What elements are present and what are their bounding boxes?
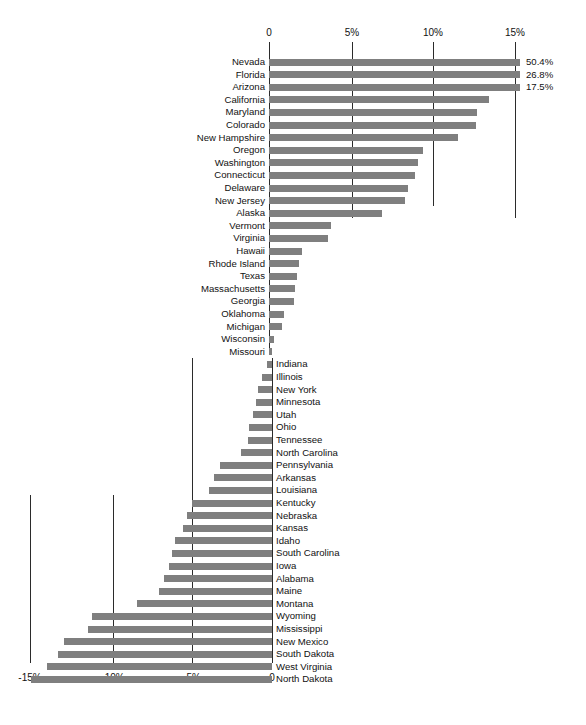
bar-category-label: Utah (276, 409, 296, 422)
bar-row: Iowa (0, 560, 586, 573)
bar-row: Wyoming (0, 610, 586, 623)
bar-category-label: Montana (276, 598, 313, 611)
bar (269, 260, 299, 267)
bar-category-label: Ohio (276, 421, 296, 434)
bar (92, 613, 272, 620)
top-axis-tick-label-0: 0 (266, 27, 272, 39)
bar-category-label: Kansas (276, 522, 308, 535)
bar-category-label: Michigan (0, 321, 265, 334)
bar (269, 248, 302, 255)
bar-row: West Virginia (0, 661, 586, 674)
bar (269, 185, 408, 192)
bar-row: Missouri (0, 346, 586, 359)
bar (169, 563, 272, 570)
bar (269, 222, 331, 229)
bar-category-label: Oklahoma (0, 308, 265, 321)
bar-category-label: Arizona (0, 81, 265, 94)
bar-row: Vermont (0, 220, 586, 233)
bar (187, 512, 272, 519)
bar-row: Idaho (0, 535, 586, 548)
bar-row: Massachusetts (0, 283, 586, 296)
bar-row: Oregon (0, 144, 586, 157)
bar-row: Hawaii (0, 245, 586, 258)
top-axis-tick-label-2: 10% (423, 27, 443, 39)
bar-row: Kansas (0, 522, 586, 535)
bar (256, 399, 272, 406)
bar (88, 626, 272, 633)
bar-row: Nebraska (0, 510, 586, 523)
horizontal-bar-chart: 0 5% 10% 15% -15% -10% -5% 0 Nevada50.4%… (0, 0, 586, 725)
bar-row: Delaware (0, 182, 586, 195)
bar-row: Michigan (0, 321, 586, 334)
bar-category-label: Rhode Island (0, 258, 265, 271)
bar-category-label: Alabama (276, 573, 314, 586)
bar-category-label: Hawaii (0, 245, 265, 258)
bar-category-label: New Jersey (0, 195, 265, 208)
bar-category-label: Georgia (0, 295, 265, 308)
bar-category-label: Maryland (0, 106, 265, 119)
bar (269, 159, 418, 166)
bar-row: New Jersey (0, 195, 586, 208)
bar-category-label: Pennsylvania (276, 459, 333, 472)
bar-category-label: Texas (0, 270, 265, 283)
bar-category-label: Arkansas (276, 472, 316, 485)
bar (267, 361, 272, 368)
bar-value-label: 50.4% (526, 56, 553, 69)
bar (269, 71, 520, 78)
bar-category-label: West Virginia (276, 661, 332, 674)
bar-category-label: Mississippi (276, 623, 322, 636)
bar (164, 575, 272, 582)
bar-category-label: Missouri (0, 346, 265, 359)
bar-row: Colorado (0, 119, 586, 132)
bar-category-label: Connecticut (0, 169, 265, 182)
bar-row: Ohio (0, 421, 586, 434)
bar (269, 210, 382, 217)
bar-row: Montana (0, 598, 586, 611)
bar-row: Louisiana (0, 484, 586, 497)
bar-row: Connecticut (0, 169, 586, 182)
bar-category-label: Virginia (0, 232, 265, 245)
bar-row: Alaska (0, 207, 586, 220)
bar (192, 500, 273, 507)
bar-category-label: Nevada (0, 56, 265, 69)
bar-row: New Mexico (0, 636, 586, 649)
bar (269, 273, 297, 280)
bar-row: Kentucky (0, 497, 586, 510)
bar (269, 84, 520, 91)
bar (269, 298, 294, 305)
bar (220, 462, 272, 469)
bar (269, 235, 328, 242)
bar (137, 600, 272, 607)
bar (58, 651, 272, 658)
bar (262, 374, 272, 381)
bar (214, 474, 272, 481)
bar (248, 437, 272, 444)
bar-category-label: Washington (0, 157, 265, 170)
bar (241, 449, 272, 456)
top-axis-tick-mark-1 (352, 42, 353, 54)
bar-row: Pennsylvania (0, 459, 586, 472)
bar (253, 411, 272, 418)
bar-category-label: Massachusetts (0, 283, 265, 296)
bar-row: Rhode Island (0, 258, 586, 271)
bar (64, 638, 272, 645)
bar-row: Minnesota (0, 396, 586, 409)
bar (183, 525, 272, 532)
bar-row: Indiana (0, 358, 586, 371)
top-axis-tick-mark-3 (515, 42, 516, 54)
bar-row: Nevada50.4% (0, 56, 586, 69)
bar (269, 134, 458, 141)
bar (31, 676, 273, 683)
bar-category-label: Illinois (276, 371, 303, 384)
bar-category-label: Maine (276, 585, 302, 598)
bar (269, 172, 415, 179)
bar (175, 537, 272, 544)
bar-row: Florida26.8% (0, 69, 586, 82)
bar-category-label: Idaho (276, 535, 300, 548)
bar (47, 663, 272, 670)
bar-row: New York (0, 384, 586, 397)
top-axis-tick-label-3: 15% (505, 27, 525, 39)
bar-category-label: Louisiana (276, 484, 317, 497)
bar-category-label: Tennessee (276, 434, 322, 447)
bar-category-label: Indiana (276, 358, 307, 371)
